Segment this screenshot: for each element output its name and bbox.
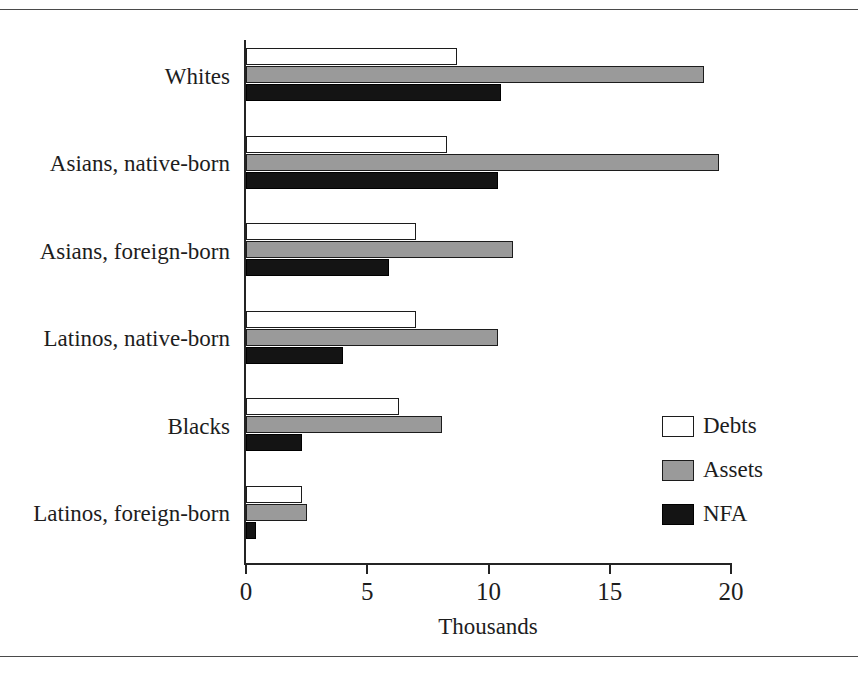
bottom-horizontal-rule [0,656,858,657]
bar-debts [246,486,302,503]
category-label: Whites [165,62,230,92]
bar-nfa [246,259,389,276]
bar-debts [246,223,416,240]
category-label: Asians, native-born [50,149,230,179]
x-axis-tick [366,565,368,574]
bar-debts [246,48,457,65]
category-label: Asians, foreign-born [40,237,230,267]
legend-item-assets: Assets [662,448,842,492]
bar-assets [246,416,442,433]
bar-assets [246,154,719,171]
category-label: Latinos, native-born [43,324,230,354]
bar-nfa [246,84,501,101]
x-axis-tick-label: 20 [701,575,761,609]
bar-assets [246,504,307,521]
bar-debts [246,311,416,328]
bar-chart-figure: 05101520WhitesAsians, native-bornAsians,… [0,12,858,652]
x-axis-tick [609,565,611,574]
x-axis-title: Thousands [244,612,732,642]
category-label: Blacks [167,412,230,442]
bar-nfa [246,434,302,451]
bar-assets [246,66,704,83]
bar-nfa [246,172,498,189]
bar-assets [246,241,513,258]
legend-swatch-nfa-icon [662,504,694,525]
plot-area: 05101520WhitesAsians, native-bornAsians,… [0,12,858,652]
legend-item-debts: Debts [662,404,842,448]
x-axis-tick [245,565,247,574]
x-axis-tick [730,565,732,574]
legend-label-debts: Debts [703,411,757,441]
chart-legend: Debts Assets NFA [662,404,842,536]
x-axis-tick [488,565,490,574]
bar-assets [246,329,498,346]
legend-item-nfa: NFA [662,492,842,536]
top-horizontal-rule [0,9,858,10]
category-label: Latinos, foreign-born [33,499,230,529]
x-axis-tick-label: 0 [216,575,276,609]
x-axis-tick-label: 15 [580,575,640,609]
bar-debts [246,398,399,415]
bar-debts [246,136,447,153]
x-axis-tick-label: 5 [337,575,397,609]
legend-swatch-debts-icon [662,416,694,437]
legend-label-nfa: NFA [703,499,747,529]
bar-nfa [246,522,256,539]
x-axis-tick-label: 10 [459,575,519,609]
bar-nfa [246,347,343,364]
legend-label-assets: Assets [703,455,763,485]
legend-swatch-assets-icon [662,460,694,481]
